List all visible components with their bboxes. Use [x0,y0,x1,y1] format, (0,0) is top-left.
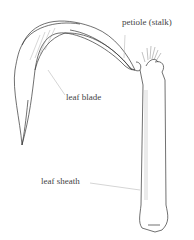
petiole-label: petiole (stalk) [122,17,172,27]
leaf-diagram [0,0,194,240]
leaf-blade-leader-line [48,70,65,95]
leaf-sheath-label: leaf sheath [41,176,80,186]
leaf-sheath-outline [140,70,143,228]
petiole-leader-line [124,35,125,58]
leaf-sheath-leader-line [90,183,140,190]
leaf-blade-outline [14,21,135,145]
leaf-blade-label: leaf blade [66,92,101,102]
